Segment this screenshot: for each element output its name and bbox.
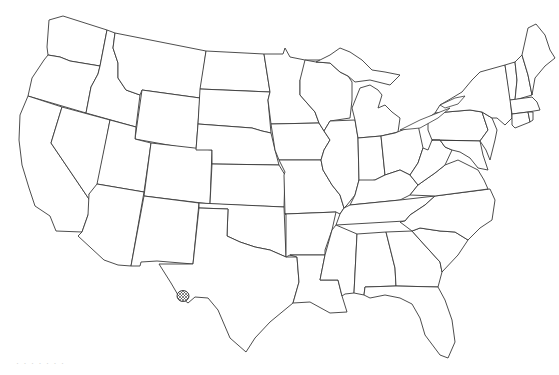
- state-michigan: [352, 85, 400, 138]
- state-colorado: [144, 143, 212, 204]
- state-florida: [364, 286, 455, 358]
- hatched-region-marker: [177, 291, 189, 302]
- state-iowa: [271, 123, 330, 160]
- us-outline-map: [0, 0, 559, 375]
- state-kansas: [210, 164, 285, 207]
- state-massachusetts: [510, 97, 540, 114]
- state-indiana: [358, 136, 385, 183]
- state-montana: [113, 33, 206, 98]
- state-north-dakota: [200, 51, 270, 92]
- map-caption: · · · · · · ·: [16, 358, 65, 368]
- state-connecticut: [512, 112, 530, 128]
